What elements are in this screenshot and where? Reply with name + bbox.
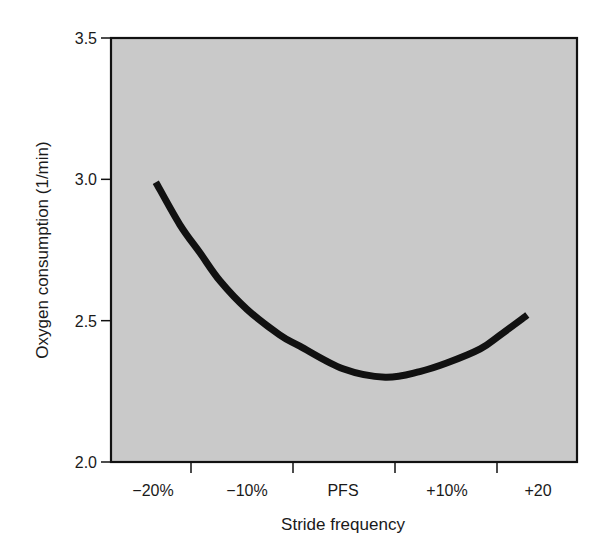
y-tick-label: 2.5: [75, 313, 97, 330]
plot-area: [111, 38, 577, 462]
chart: 2.02.53.03.5 −20%−10%PFS+10%+20 Stride f…: [0, 0, 596, 548]
y-axis-title: Oxygen consumption (1/min): [33, 141, 52, 358]
y-tick-label: 3.0: [75, 171, 97, 188]
x-axis-title: Stride frequency: [281, 515, 405, 534]
y-axis-ticks: 2.02.53.03.5: [75, 30, 111, 471]
x-tick-label: −20%: [132, 482, 173, 499]
x-tick-label: +10%: [426, 482, 467, 499]
y-tick-label: 3.5: [75, 30, 97, 47]
y-tick-label: 2.0: [75, 454, 97, 471]
x-axis-ticks: −20%−10%PFS+10%+20: [132, 462, 551, 499]
x-tick-label: −10%: [226, 482, 267, 499]
x-tick-label: +20: [524, 482, 551, 499]
x-tick-label: PFS: [327, 482, 358, 499]
